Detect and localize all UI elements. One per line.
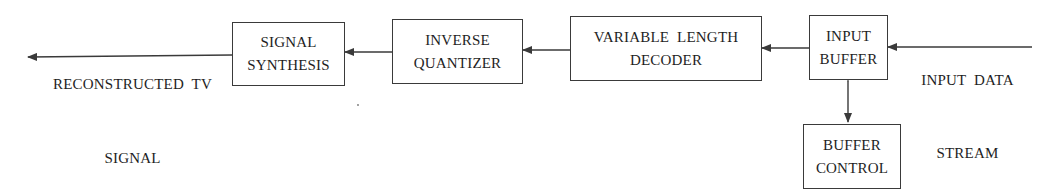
block-label-line-2: DECODER	[630, 49, 702, 72]
signal-synthesis-block: SIGNAL SYNTHESIS	[232, 22, 345, 86]
variable-length-decoder-block: VARIABLE LENGTH DECODER	[570, 16, 762, 81]
block-label-line-1: SIGNAL	[260, 31, 316, 54]
input-buffer-block: INPUT BUFFER	[809, 15, 888, 80]
input-label-line-1: INPUT DATA	[900, 69, 1035, 92]
block-label-line-1: INVERSE	[425, 29, 490, 52]
block-label-line-2: CONTROL	[816, 157, 888, 180]
output-label-line-1: RECONSTRUCTED TV	[30, 73, 235, 96]
buffer-control-block: BUFFER CONTROL	[803, 124, 901, 189]
block-label-line-2: SYNTHESIS	[247, 54, 330, 77]
block-label-line-1: INPUT	[826, 25, 871, 48]
output-label-line-2: SIGNAL	[30, 147, 235, 170]
block-label-line-2: QUANTIZER	[414, 52, 502, 75]
decoder-block-diagram: RECONSTRUCTED TV SIGNAL SIGNAL SYNTHESIS…	[0, 0, 1057, 196]
block-label-line-1: BUFFER	[823, 134, 881, 157]
input-label-line-2: STREAM	[900, 142, 1035, 165]
input-label: INPUT DATA STREAM	[900, 23, 1035, 196]
inverse-quantizer-block: INVERSE QUANTIZER	[392, 19, 523, 84]
block-label-line-1: VARIABLE LENGTH	[594, 26, 739, 49]
block-label-line-2: BUFFER	[820, 48, 878, 71]
output-label: RECONSTRUCTED TV SIGNAL	[30, 27, 235, 196]
